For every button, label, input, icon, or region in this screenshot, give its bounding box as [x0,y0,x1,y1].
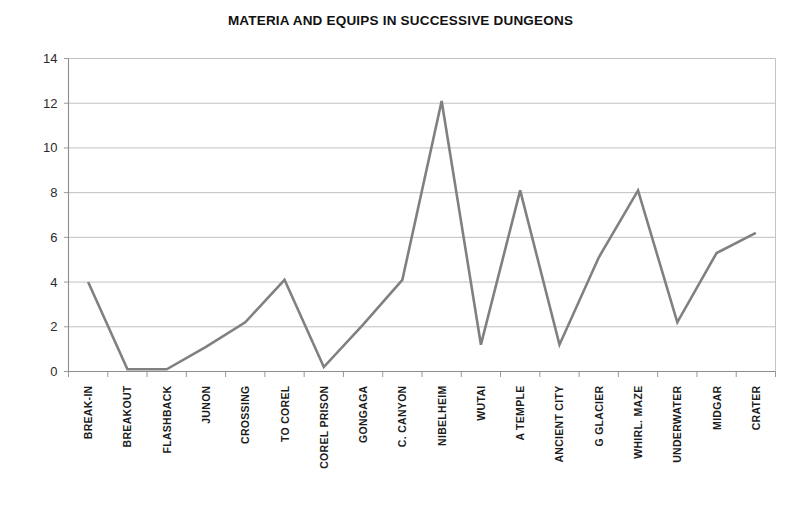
series-line-0 [88,101,756,369]
x-axis-tick-label: GONGAGA [357,385,369,443]
x-axis-tick-label: BREAK-IN [82,386,94,440]
y-axis-tick-label: 4 [50,275,57,290]
x-axis-tick-label: COREL PRISON [318,386,330,469]
y-axis-tick-label: 2 [50,319,57,334]
x-axis-tick-label: NIBELHEIM [436,386,448,446]
x-axis-tick-label: G GLACIER [593,385,605,446]
data-series [88,101,756,369]
gridlines [69,59,776,372]
x-axis-tick-label: UNDERWATER [671,385,683,462]
x-axis-tick-label: WHIRL. MAZE [632,386,644,459]
x-axis-tick-label: ANCIENT CITY [553,386,565,463]
x-axis-tick-label: C. CANYON [396,386,408,448]
x-axis-labels: BREAK-INBREAKOUTFLASHBACKJUNONCROSSINGTO… [82,385,762,469]
x-axis-tick-label: CROSSING [239,386,251,444]
y-axis-tick-label: 14 [43,51,57,66]
x-axis-tickmarks [69,372,776,378]
y-axis-tick-label: 10 [43,140,57,155]
x-axis-tick-label: CRATER [750,385,762,430]
x-axis-tick-label: FLASHBACK [161,385,173,453]
y-axis-tick-label: 12 [43,96,57,111]
x-axis-tick-label: JUNON [200,386,212,424]
chart-container: MATERIA AND EQUIPS IN SUCCESSIVE DUNGEON… [0,0,801,519]
y-axis-tick-label: 0 [50,364,57,379]
x-axis-tick-label: BREAKOUT [121,385,133,447]
x-axis-tick-label: MIDGAR [711,385,723,429]
x-axis-tick-label: A TEMPLE [514,386,526,441]
x-axis-tick-label: TO COREL [279,385,291,442]
y-axis-tick-label: 6 [50,230,57,245]
y-axis-labels: 02468101214 [43,51,57,379]
x-axis-tick-label: WUTAI [475,386,487,421]
plot-frame [64,59,776,372]
line-chart-plot: 02468101214 BREAK-INBREAKOUTFLASHBACKJUN… [0,0,801,519]
y-axis-tick-label: 8 [50,185,57,200]
